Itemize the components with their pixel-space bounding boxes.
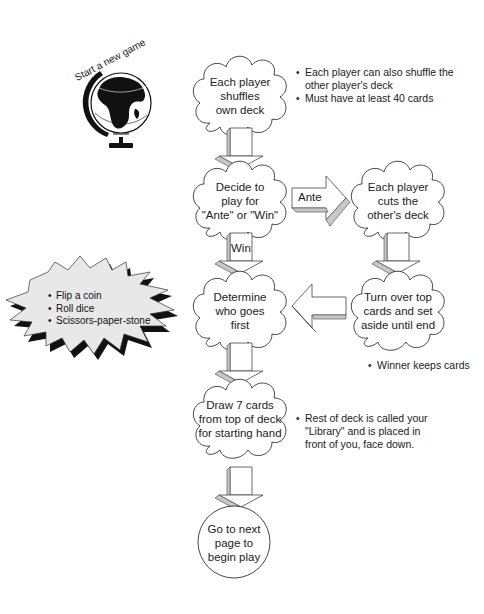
- node-draw-line: Draw 7 cards: [185, 398, 295, 412]
- node-shuffle-line: shuffles: [195, 89, 285, 103]
- node-decide-line: play for: [190, 194, 290, 208]
- note-draw-item-cont: front of you, face down.: [296, 438, 476, 451]
- node-cut-line: cuts the: [350, 194, 446, 208]
- globe-icon: [83, 71, 151, 148]
- arrow-down-4: [215, 467, 263, 510]
- note-shuffle-item: Each player can also shuffle the: [296, 66, 482, 79]
- note-shuffle: Each player can also shuffle the other p…: [296, 66, 482, 105]
- note-draw-item-cont: "Library" and is placed in: [296, 425, 476, 438]
- node-draw: Draw 7 cards from top of deck for starti…: [185, 398, 295, 440]
- node-draw-line: from top of deck: [185, 412, 295, 426]
- node-decide-line: "Ante" or "Win": [190, 208, 290, 222]
- node-next-line: page to: [194, 536, 274, 550]
- node-shuffle: Each player shuffles own deck: [195, 75, 285, 117]
- node-determine: Determine who goes first: [195, 290, 285, 332]
- note-draw-item: Rest of deck is called your: [296, 412, 476, 425]
- note-turnover-item: Winner keeps cards: [368, 359, 484, 372]
- node-turnover-line: cards and set: [350, 304, 446, 318]
- burst-item: Flip a coin: [48, 290, 168, 303]
- node-cut: Each player cuts the other's deck: [350, 180, 446, 222]
- node-turnover-line: Turn over top: [350, 290, 446, 304]
- arrow-label-ante: Ante: [298, 191, 322, 203]
- arrow-down-win: [215, 233, 263, 276]
- node-determine-line: Determine: [195, 290, 285, 304]
- node-cut-line: other's deck: [350, 208, 446, 222]
- note-draw: Rest of deck is called your "Library" an…: [296, 412, 476, 451]
- node-next-line: begin play: [194, 550, 274, 564]
- arrow-label-win: Win: [231, 242, 251, 254]
- arrow-left: [292, 284, 346, 332]
- node-decide: Decide to play for "Ante" or "Win": [190, 180, 290, 222]
- node-determine-line: who goes: [195, 304, 285, 318]
- node-determine-line: first: [195, 318, 285, 332]
- note-shuffle-item-cont: other player's deck: [296, 79, 482, 92]
- note-turnover: Winner keeps cards: [368, 359, 484, 372]
- node-cut-line: Each player: [350, 180, 446, 194]
- burst-item: Scissors-paper-stone: [48, 315, 168, 328]
- node-decide-line: Decide to: [190, 180, 290, 194]
- burst-item: Roll dice: [48, 303, 168, 316]
- node-turnover: Turn over top cards and set aside until …: [350, 290, 446, 332]
- node-draw-line: for starting hand: [185, 426, 295, 440]
- node-next: Go to next page to begin play: [194, 522, 274, 564]
- node-turnover-line: aside until end: [350, 318, 446, 332]
- node-next-line: Go to next: [194, 522, 274, 536]
- burst-list: Flip a coin Roll dice Scissors-paper-sto…: [48, 290, 168, 328]
- arrow-down-2: [372, 233, 420, 276]
- node-shuffle-line: own deck: [195, 103, 285, 117]
- note-shuffle-item: Must have at least 40 cards: [296, 92, 482, 105]
- node-shuffle-line: Each player: [195, 75, 285, 89]
